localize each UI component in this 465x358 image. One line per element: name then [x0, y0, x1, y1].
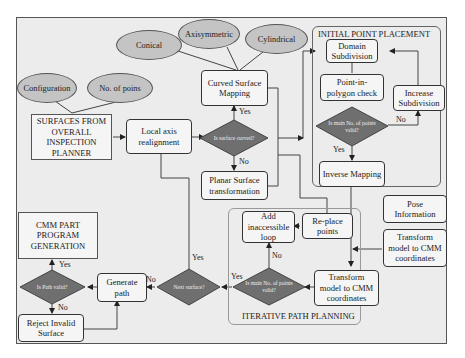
ellipse-axisymmetric: Axisymmetric [178, 19, 240, 49]
edge-label-initial-no: No [396, 115, 406, 124]
box-transform-cmm-right: Transform model to CMM coordinates [383, 229, 447, 267]
edge-label-curved-yes: Yes [239, 107, 251, 116]
box-add-inaccessible-loop: Add inaccessible loop [242, 211, 295, 243]
edge-label-initial-yes: Yes [333, 145, 345, 154]
box-pose-information: Pose Information [383, 195, 447, 223]
ellipse-configuration: Configuration [17, 73, 77, 103]
decision-label-is-surface-curved: Is surface curved? [213, 130, 255, 146]
box-domain-subdivision: Domain Subdivision [326, 39, 378, 63]
box-local-axis-realignment: Local axis realignment [126, 119, 192, 154]
box-cmm-part-program: CMM PART PROGRAM GENERATION [18, 212, 98, 259]
box-transform-cmm-iterative: Transform model to CMM coordinates [314, 270, 379, 306]
decision-label-iter-valid: Is main No. of points valid? [244, 279, 294, 295]
ellipse-no-of-points: No. of poins [87, 73, 153, 103]
box-increase-subdivision: Increase Subdivision [393, 85, 445, 111]
edge-label-next-no: No [146, 275, 156, 284]
decision-label-initial-valid: Is main No. of points valid? [327, 119, 377, 135]
box-curved-surface-mapping: Curved Surface Mapping [201, 70, 268, 106]
edge-label-iter-no: No [272, 251, 282, 260]
group-title-initial: INITIAL POINT PLACEMENT [318, 29, 430, 39]
decision-label-next-surface: Next surface? [163, 281, 215, 293]
box-point-in-polygon: Point-in-polygon check [320, 74, 384, 101]
ellipse-cylindrical: Cylindrical [245, 24, 308, 54]
edge-label-curved-no: No [239, 157, 249, 166]
box-reject-invalid-surface: Reject Invalid Surface [18, 314, 84, 342]
edge-label-path-yes: Yes [59, 260, 71, 269]
edge-label-iter-yes: Yes [231, 272, 243, 281]
edge-label-next-yes: Yes [192, 253, 204, 262]
box-surfaces-from-planner: SURFACES FROM OVERALL INSPECTION PLANNER [31, 114, 112, 160]
ellipse-conical: Conical [116, 30, 182, 60]
box-planar-surface-transformation: Planar Surface transformation [201, 171, 268, 200]
box-replace-points: Re-place points [302, 213, 353, 239]
edge-label-path-no: No [58, 303, 68, 312]
decision-label-path-valid: Is Path valid? [27, 281, 77, 293]
group-title-iterative: ITERATIVE PATH PLANNING [242, 311, 355, 321]
box-inverse-mapping: Inverse Mapping [319, 161, 385, 187]
box-generate-path: Generate path [97, 273, 147, 302]
